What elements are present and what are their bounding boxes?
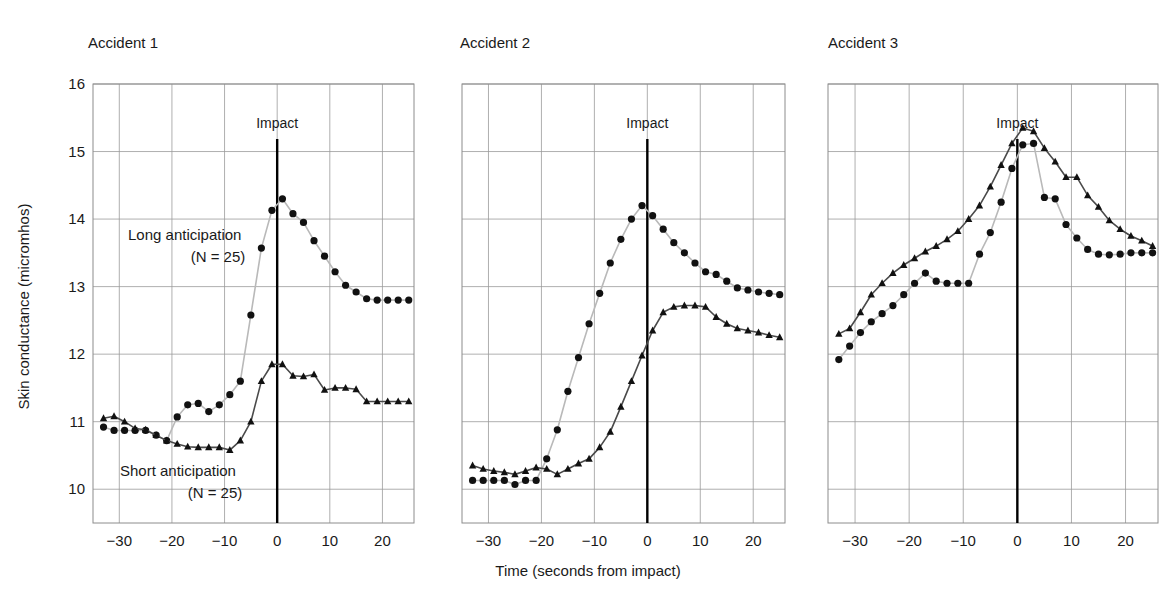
x-tick-label: 20 <box>359 532 405 549</box>
data-point-triangle <box>469 462 476 469</box>
data-point-circle <box>511 481 518 488</box>
data-point-circle <box>998 199 1005 206</box>
data-point-circle <box>922 270 929 277</box>
data-point-circle <box>1041 194 1048 201</box>
data-point-circle <box>110 427 117 434</box>
data-point-triangle <box>110 412 117 419</box>
x-tick-label: −20 <box>518 532 564 549</box>
data-point-circle <box>237 378 244 385</box>
y-tick-label: 10 <box>59 480 85 497</box>
y-tick-label: 16 <box>59 75 85 92</box>
data-point-circle <box>1084 246 1091 253</box>
data-point-circle <box>734 284 741 291</box>
legend-long-anticipation-n: (N = 25) <box>128 248 308 265</box>
data-point-circle <box>585 320 592 327</box>
data-point-circle <box>835 356 842 363</box>
data-point-circle <box>933 278 940 285</box>
data-point-circle <box>543 455 550 462</box>
data-point-triangle <box>638 352 645 359</box>
data-point-circle <box>1149 249 1156 256</box>
data-point-circle <box>1095 251 1102 258</box>
data-point-circle <box>911 280 918 287</box>
data-point-circle <box>900 291 907 298</box>
data-point-circle <box>121 427 128 434</box>
data-point-circle <box>268 207 275 214</box>
data-point-circle <box>1030 140 1037 147</box>
series-line-circle <box>473 206 780 485</box>
data-point-circle <box>846 342 853 349</box>
x-tick-label: 20 <box>1103 532 1149 549</box>
data-point-circle <box>649 212 656 219</box>
data-point-triangle <box>997 161 1004 168</box>
panel-3 <box>828 84 1158 523</box>
data-point-circle <box>310 237 317 244</box>
data-point-circle <box>331 268 338 275</box>
legend-short-anticipation: Short anticipation <box>120 462 310 479</box>
data-point-circle <box>469 477 476 484</box>
data-point-circle <box>943 280 950 287</box>
data-point-circle <box>670 239 677 246</box>
data-point-circle <box>1106 251 1113 258</box>
data-point-triangle <box>131 424 138 431</box>
data-point-circle <box>353 288 360 295</box>
impact-annotation: Impact <box>982 115 1052 131</box>
data-point-circle <box>1138 249 1145 256</box>
plot-frame <box>93 84 414 523</box>
data-point-circle <box>660 226 667 233</box>
data-point-circle <box>374 297 381 304</box>
data-point-circle <box>226 391 233 398</box>
data-point-circle <box>713 271 720 278</box>
x-tick-label: 0 <box>994 532 1040 549</box>
data-point-circle <box>976 251 983 258</box>
data-point-circle <box>879 310 886 317</box>
data-point-circle <box>868 318 875 325</box>
data-point-circle <box>987 229 994 236</box>
data-point-circle <box>954 280 961 287</box>
data-point-circle <box>702 268 709 275</box>
data-point-triangle <box>628 377 635 384</box>
data-point-circle <box>1062 221 1069 228</box>
impact-annotation: Impact <box>612 115 682 131</box>
data-point-circle <box>522 477 529 484</box>
data-point-triangle <box>900 261 907 268</box>
series-line-triangle <box>839 128 1153 334</box>
data-point-circle <box>384 297 391 304</box>
panel-1 <box>93 84 414 523</box>
data-point-circle <box>596 290 603 297</box>
data-point-circle <box>1052 195 1059 202</box>
data-point-circle <box>174 413 181 420</box>
series-line-triangle <box>473 306 780 475</box>
data-point-circle <box>691 259 698 266</box>
x-tick-label: −20 <box>149 532 195 549</box>
data-point-triangle <box>532 464 539 471</box>
data-point-circle <box>1019 141 1026 148</box>
data-point-triangle <box>889 269 896 276</box>
data-point-circle <box>289 210 296 217</box>
data-point-circle <box>501 477 508 484</box>
x-tick-label: 20 <box>730 532 776 549</box>
plot-frame <box>462 84 785 523</box>
data-point-circle <box>100 424 107 431</box>
data-point-circle <box>533 477 540 484</box>
data-point-circle <box>776 291 783 298</box>
data-point-circle <box>857 329 864 336</box>
data-point-triangle <box>933 242 940 249</box>
data-point-circle <box>638 202 645 209</box>
data-point-circle <box>681 249 688 256</box>
data-point-circle <box>1008 165 1015 172</box>
y-tick-label: 15 <box>59 143 85 160</box>
data-point-triangle <box>723 320 730 327</box>
x-tick-label: 10 <box>307 532 353 549</box>
data-point-circle <box>723 278 730 285</box>
data-point-triangle <box>310 370 317 377</box>
data-point-circle <box>889 302 896 309</box>
x-tick-label: −20 <box>886 532 932 549</box>
data-point-circle <box>1073 234 1080 241</box>
data-point-circle <box>554 426 561 433</box>
x-tick-label: −30 <box>832 532 878 549</box>
legend-short-anticipation-n: (N = 25) <box>120 484 310 501</box>
data-point-circle <box>205 408 212 415</box>
data-point-triangle <box>911 254 918 261</box>
data-point-circle <box>342 282 349 289</box>
figure-root: Accident 1 Accident 2 Accident 3 Skin co… <box>0 0 1176 593</box>
